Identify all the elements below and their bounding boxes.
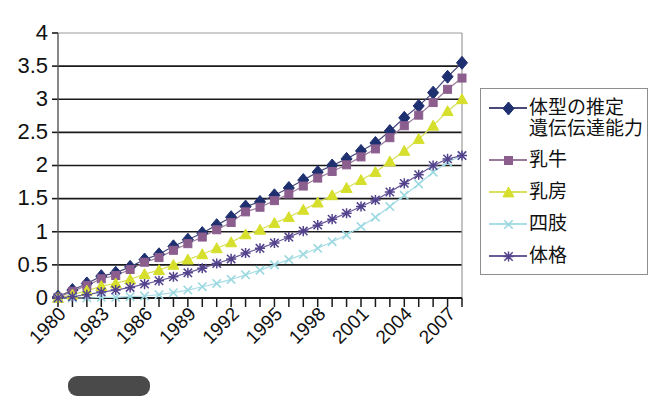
- svg-text:1998: 1998: [285, 303, 330, 348]
- svg-text:2001: 2001: [328, 303, 373, 348]
- chart-legend: 体型の推定 遺伝伝達能力 乳牛 乳房 四肢: [480, 88, 648, 275]
- gridlines: [58, 33, 462, 298]
- legend-marker-0: [502, 101, 515, 114]
- svg-text:1986: 1986: [112, 303, 157, 348]
- svg-text:3: 3: [36, 86, 48, 111]
- svg-text:1989: 1989: [155, 303, 200, 348]
- legend-marker-1: [502, 153, 515, 166]
- svg-text:3.5: 3.5: [17, 53, 48, 78]
- legend-label-2: 乳房: [529, 181, 567, 202]
- legend-label-4: 体格: [529, 245, 567, 266]
- y-axis-labels: 00.511.522.533.54: [17, 20, 48, 310]
- legend-item-3[interactable]: 四肢: [481, 213, 647, 234]
- svg-text:4: 4: [36, 20, 48, 45]
- svg-text:0: 0: [36, 285, 48, 310]
- legend-label-3: 四肢: [529, 213, 567, 234]
- legend-key-square-icon: [487, 150, 529, 170]
- x-axis-labels: 1980198319861989199219951998200120042007: [25, 303, 459, 348]
- y-axis-ticks: [52, 33, 58, 298]
- svg-text:1983: 1983: [68, 303, 113, 348]
- legend-key-diamond-icon: [487, 98, 529, 118]
- legend-key-triangle-icon: [487, 182, 529, 202]
- bottom-pill-button[interactable]: [68, 376, 150, 396]
- svg-text:1992: 1992: [198, 303, 243, 348]
- legend-item-2[interactable]: 乳房: [481, 181, 647, 202]
- svg-text:1980: 1980: [25, 303, 70, 348]
- svg-text:2.5: 2.5: [17, 119, 48, 144]
- legend-marker-2: [502, 185, 515, 198]
- svg-text:1.5: 1.5: [17, 185, 48, 210]
- svg-text:2004: 2004: [371, 303, 416, 348]
- legend-marker-3: [502, 217, 515, 230]
- svg-text:2: 2: [36, 152, 48, 177]
- legend-label-0: 体型の推定 遺伝伝達能力: [529, 97, 643, 139]
- svg-text:2007: 2007: [415, 303, 460, 348]
- legend-item-1[interactable]: 乳牛: [481, 149, 647, 170]
- svg-text:0.5: 0.5: [17, 252, 48, 277]
- legend-item-0[interactable]: 体型の推定 遺伝伝達能力: [481, 97, 647, 139]
- data-series-layer: [52, 56, 467, 303]
- legend-item-4[interactable]: 体格: [481, 245, 647, 266]
- legend-key-star-icon: [487, 246, 529, 266]
- legend-marker-4: [502, 249, 515, 262]
- svg-text:1: 1: [36, 219, 48, 244]
- legend-key-x-icon: [487, 214, 529, 234]
- svg-text:1995: 1995: [242, 303, 287, 348]
- legend-label-1: 乳牛: [529, 149, 567, 170]
